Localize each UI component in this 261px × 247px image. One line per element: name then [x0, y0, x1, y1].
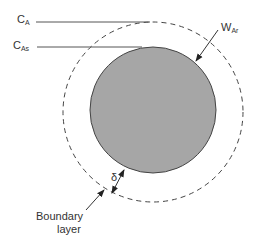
boundary-layer-arrow [86, 190, 104, 210]
label-war: WAr [221, 22, 238, 34]
label-boundary: Boundary [36, 211, 83, 222]
label-cas: CAs [13, 40, 29, 52]
particle-circle [90, 47, 216, 173]
label-ca: CA [17, 14, 30, 26]
label-delta: δ [111, 172, 117, 183]
label-layer: layer [57, 224, 81, 235]
